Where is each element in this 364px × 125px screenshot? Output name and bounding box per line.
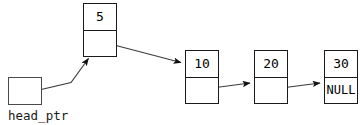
list-node-5: 5 bbox=[83, 3, 117, 57]
node-data-cell: 10 bbox=[186, 51, 218, 78]
node-next-cell bbox=[84, 31, 116, 57]
node-data-cell: 30 bbox=[325, 51, 357, 78]
linked-list-diagram: head_ptr 5 10 20 30 NULL bbox=[0, 0, 364, 125]
head-pointer-label: head_ptr bbox=[8, 110, 68, 123]
node-null-cell: NULL bbox=[325, 78, 357, 104]
list-node-10: 10 bbox=[185, 50, 219, 104]
node-next-cell bbox=[186, 78, 218, 104]
node-next-cell bbox=[255, 78, 287, 104]
node-data-cell: 20 bbox=[255, 51, 287, 78]
list-node-30: 30 NULL bbox=[324, 50, 358, 104]
node-data-cell: 5 bbox=[84, 4, 116, 31]
head-pointer-box bbox=[8, 77, 42, 105]
list-node-20: 20 bbox=[254, 50, 288, 104]
edge-layer bbox=[0, 0, 364, 125]
